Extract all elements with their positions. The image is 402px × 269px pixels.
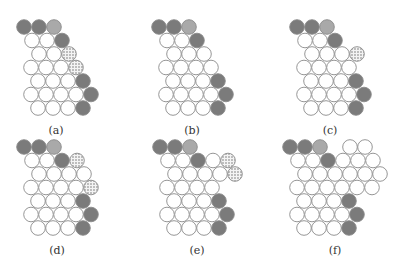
disk-white: [327, 87, 342, 102]
disk-white: [342, 60, 357, 75]
disk-white: [174, 87, 189, 102]
disk-white: [189, 87, 204, 102]
panel-d: [17, 140, 99, 236]
disk-white: [159, 87, 174, 102]
disk-dark: [305, 20, 320, 35]
disk-dark: [76, 74, 91, 89]
disk-white: [168, 167, 183, 182]
panel-label-f: (f): [329, 244, 342, 257]
disk-white: [46, 194, 61, 209]
disk-white: [175, 33, 190, 48]
disk-white: [181, 101, 196, 116]
disk-white: [320, 180, 335, 195]
disk-dark: [191, 153, 206, 168]
disk-white: [297, 87, 312, 102]
disk-dark: [32, 20, 47, 35]
disk-dark: [219, 87, 234, 102]
disk-dark: [212, 194, 227, 209]
disk-white: [312, 87, 327, 102]
disk-white: [320, 207, 335, 222]
disk-white: [62, 167, 77, 182]
disk-white: [343, 167, 358, 182]
disk-white: [297, 60, 312, 75]
disk-white: [167, 221, 182, 236]
disk-dark: [211, 101, 226, 116]
disk-white: [166, 101, 181, 116]
disk-white: [39, 87, 54, 102]
disk-white: [46, 74, 61, 89]
disk-white: [161, 153, 176, 168]
disk-dark: [32, 140, 47, 155]
disk-white: [54, 180, 69, 195]
disk-white: [304, 101, 319, 116]
disk-white: [69, 207, 84, 222]
disk-white: [31, 74, 46, 89]
panel-f: [283, 140, 388, 236]
disk-white: [312, 221, 327, 236]
disk-white: [334, 101, 349, 116]
disk-white: [54, 87, 69, 102]
disk-white: [213, 167, 228, 182]
disk-white: [206, 153, 221, 168]
disk-white: [39, 180, 54, 195]
disk-light: [183, 140, 198, 155]
panel-b: [152, 20, 234, 116]
disk-dark: [190, 33, 205, 48]
disk-white: [197, 194, 212, 209]
disk-white: [328, 167, 343, 182]
disk-dark: [283, 140, 298, 155]
disk-light: [320, 20, 335, 35]
disk-white: [31, 194, 46, 209]
disk-white: [46, 101, 61, 116]
disk-white: [196, 101, 211, 116]
disk-dark: [84, 87, 99, 102]
disk-white: [54, 207, 69, 222]
disk-dark: [17, 20, 32, 35]
disk-white: [306, 153, 321, 168]
panel-label-a: (a): [48, 124, 63, 137]
disk-white: [39, 60, 54, 75]
disk-white: [351, 153, 366, 168]
disk-dark: [76, 194, 91, 209]
disk-white: [335, 207, 350, 222]
disk-white: [69, 180, 84, 195]
disk-dark: [76, 101, 91, 116]
disk-white: [319, 74, 334, 89]
disk-white: [373, 167, 388, 182]
disk-white: [61, 221, 76, 236]
disk-white: [320, 47, 335, 62]
disk-white: [305, 180, 320, 195]
disk-white: [24, 180, 39, 195]
disk-dark: [290, 20, 305, 35]
disk-white: [196, 74, 211, 89]
disk-dark: [167, 20, 182, 35]
disk-white: [24, 207, 39, 222]
disk-white: [32, 167, 47, 182]
disk-white: [205, 180, 220, 195]
disk-white: [327, 221, 342, 236]
disk-white: [31, 101, 46, 116]
disk-light: [47, 20, 62, 35]
disk-white: [365, 180, 380, 195]
disk-dark: [342, 194, 357, 209]
panel-a: [17, 20, 99, 116]
disk-white: [291, 153, 306, 168]
disk-white: [175, 207, 190, 222]
disk-dotted: [221, 153, 236, 168]
disk-white: [25, 33, 40, 48]
disk-white: [182, 194, 197, 209]
disk-dark: [76, 221, 91, 236]
disk-dotted: [62, 47, 77, 62]
disk-white: [39, 207, 54, 222]
disk-white: [312, 60, 327, 75]
disk-white: [304, 74, 319, 89]
disk-white: [204, 60, 219, 75]
panel-label-b: (b): [184, 124, 200, 137]
disk-white: [305, 207, 320, 222]
disk-white: [313, 33, 328, 48]
disk-dark: [328, 33, 343, 48]
disk-light: [182, 20, 197, 35]
disk-white: [175, 180, 190, 195]
disk-white: [24, 60, 39, 75]
disk-dark: [211, 74, 226, 89]
